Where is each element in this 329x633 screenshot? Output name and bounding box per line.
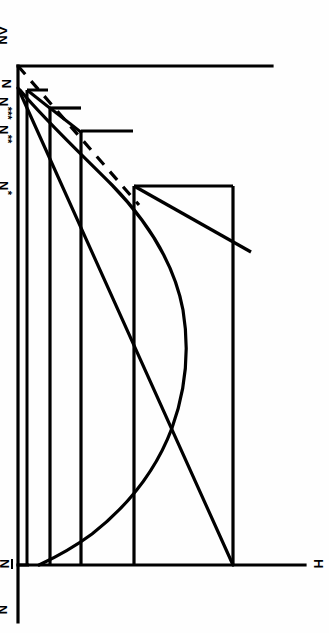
tick-label-N-star-base: N [0, 181, 11, 191]
tick-label-N-upper-text: N [0, 559, 13, 569]
tick-label-N-doublestar-exponent: ** [2, 135, 14, 144]
figure-page: H N ΔN Δt N N* N** N*** N [0, 0, 329, 633]
harvest-line-label: H [312, 559, 325, 569]
tick-label-N-doublestar-base: N [0, 125, 11, 135]
rotated-figure-stage: H N ΔN Δt N N* N** N*** N [0, 0, 329, 633]
dashed-tangent-line [18, 66, 139, 205]
tick-label-N-star: N* [0, 181, 13, 195]
tick-label-N-doublestar: N** [0, 125, 13, 143]
tick-label-N-triplestar: N*** [0, 97, 13, 120]
tick-label-N-triplestar-base: N [0, 97, 11, 107]
figure-drawing [0, 0, 329, 633]
growth-curve [20, 90, 186, 565]
y-axis-label: ΔN Δt [0, 24, 9, 47]
tick-label-N-star-exponent: * [2, 191, 14, 195]
tick-label-N-lower: N [0, 79, 13, 89]
x-axis-label: N [0, 605, 9, 615]
y-axis-label-numerator: ΔN [0, 24, 9, 47]
tick-label-N-lower-text: N [0, 79, 13, 89]
tick-label-N-triplestar-exponent: *** [2, 107, 14, 120]
tick-label-N-upper: N [0, 559, 13, 569]
